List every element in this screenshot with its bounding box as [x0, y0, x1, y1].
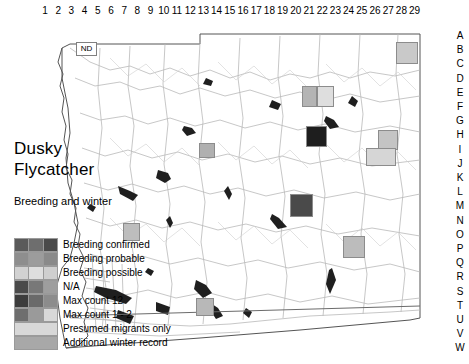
legend-swatch-cell — [29, 295, 43, 307]
legend-swatch-cell — [15, 281, 29, 293]
atlas-cell-max-count-12[interactable] — [306, 126, 327, 147]
row-label: A — [453, 30, 467, 42]
legend-swatch-cell — [15, 295, 29, 307]
atlas-cell-breeding-possible[interactable] — [317, 86, 334, 107]
row-label: B — [453, 44, 467, 56]
atlas-cell-additional-winter-record[interactable] — [343, 236, 365, 258]
column-label: 20 — [289, 4, 303, 18]
legend-swatch-cell — [44, 267, 57, 279]
legend-row: Max count 1 - 2 — [14, 308, 164, 322]
legend-swatch-cell — [29, 281, 43, 293]
legend-swatch — [14, 294, 58, 308]
legend-label: Breeding probable — [63, 252, 145, 266]
legend-swatch-cell — [29, 253, 43, 265]
legend-label: Max count 12 — [63, 294, 123, 308]
row-label: E — [453, 87, 467, 99]
species-name-line-2: Flycatcher — [14, 159, 164, 180]
legend-swatch-cell — [15, 239, 29, 251]
row-ruler: ABCDEFGHIJKLMNOPQRSTUVW — [453, 28, 467, 358]
column-label: 25 — [355, 4, 369, 18]
atlas-cell-presumed-migrants-only[interactable] — [366, 148, 396, 166]
row-label: H — [453, 129, 467, 141]
column-label: 26 — [368, 4, 382, 18]
row-label: R — [453, 271, 467, 283]
legend-swatch-cell — [29, 309, 43, 321]
column-label: 7 — [117, 4, 131, 18]
column-label: 27 — [381, 4, 395, 18]
row-label: K — [453, 172, 467, 184]
column-label: 18 — [262, 4, 276, 18]
column-label: 14 — [210, 4, 224, 18]
column-label: 19 — [276, 4, 290, 18]
legend-swatch-cell — [29, 267, 43, 279]
legend-row: N/A — [14, 280, 164, 294]
column-label: 28 — [394, 4, 408, 18]
place-label-nd: ND — [76, 42, 97, 56]
legend-swatch-cell — [15, 253, 29, 265]
atlas-cell-additional-winter-record[interactable] — [199, 143, 215, 158]
legend-label: Presumed migrants only — [63, 322, 171, 336]
column-label: 10 — [157, 4, 171, 18]
column-label: 29 — [408, 4, 422, 18]
column-label: 9 — [144, 4, 158, 18]
legend-label: Breeding possible — [63, 266, 143, 280]
column-label: 3 — [64, 4, 78, 18]
column-ruler: 1234567891011121314151617181920212223242… — [0, 4, 430, 18]
row-label: M — [453, 200, 467, 212]
map-subtitle: Breeding and winter — [14, 195, 164, 207]
row-label: O — [453, 229, 467, 241]
row-label: J — [453, 158, 467, 170]
atlas-cell-additional-winter-record[interactable] — [302, 86, 317, 107]
atlas-cell-additional-winter-record[interactable] — [196, 298, 214, 316]
atlas-cell-presumed-migrants-only[interactable] — [396, 42, 418, 64]
species-name-line-1: Dusky — [14, 138, 164, 159]
row-label: I — [453, 144, 467, 156]
legend-row: Additional winter record — [14, 336, 164, 350]
row-label: P — [453, 243, 467, 255]
row-label: G — [453, 115, 467, 127]
legend-swatch — [14, 322, 58, 336]
legend-row: Breeding probable — [14, 252, 164, 266]
column-label: 8 — [130, 4, 144, 18]
legend-swatch — [14, 336, 58, 350]
legend-swatch-cell — [44, 309, 57, 321]
column-label: 15 — [223, 4, 237, 18]
column-label: 12 — [183, 4, 197, 18]
legend-swatch — [14, 252, 58, 266]
column-label: 11 — [170, 4, 184, 18]
legend-swatch — [14, 238, 58, 252]
legend-swatch-cell — [44, 281, 57, 293]
legend-row: Presumed migrants only — [14, 322, 164, 336]
legend-swatch-cell — [44, 253, 57, 265]
column-label: 24 — [342, 4, 356, 18]
row-label: U — [453, 314, 467, 326]
column-label: 21 — [302, 4, 316, 18]
legend-swatch-cell — [15, 309, 29, 321]
map-title-block: Dusky Flycatcher Breeding and winter — [14, 138, 164, 207]
atlas-cell-breeding-confirmed[interactable] — [290, 194, 313, 217]
legend-swatch-cell — [44, 295, 57, 307]
map-legend: Breeding confirmedBreeding probableBreed… — [14, 238, 164, 350]
map-figure: 1234567891011121314151617181920212223242… — [0, 0, 469, 364]
row-label: S — [453, 286, 467, 298]
column-label: 23 — [328, 4, 342, 18]
legend-label: Max count 1 - 2 — [63, 308, 132, 322]
row-label: Q — [453, 257, 467, 269]
row-label: L — [453, 186, 467, 198]
column-label: 2 — [51, 4, 65, 18]
row-label: W — [453, 342, 467, 354]
legend-swatch — [14, 266, 58, 280]
row-label: F — [453, 101, 467, 113]
column-label: 16 — [236, 4, 250, 18]
legend-row: Max count 12 — [14, 294, 164, 308]
legend-swatch-cell — [44, 239, 57, 251]
row-label: V — [453, 328, 467, 340]
column-label: 1 — [38, 4, 52, 18]
column-label: 4 — [78, 4, 92, 18]
legend-swatch — [14, 308, 58, 322]
legend-row: Breeding confirmed — [14, 238, 164, 252]
legend-label: Breeding confirmed — [63, 238, 150, 252]
legend-label: Additional winter record — [63, 336, 168, 350]
atlas-cell-presumed-migrants-only[interactable] — [378, 130, 398, 150]
legend-swatch — [14, 280, 58, 294]
